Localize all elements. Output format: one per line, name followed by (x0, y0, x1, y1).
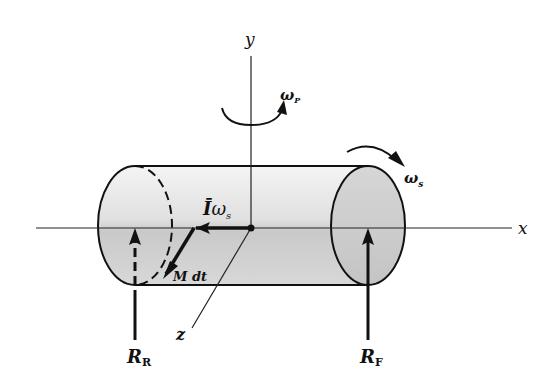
x-axis-label: x (518, 218, 528, 238)
rear-reaction-label: RR (126, 346, 152, 369)
y-axis-label: y (244, 29, 255, 49)
front-reaction-label: RF (359, 346, 383, 369)
gyroscope-diagram: x y z Īωs M dt RR RF (0, 0, 558, 392)
moment-impulse-label: M dt (172, 269, 207, 284)
precession-label: ωP (280, 86, 301, 105)
z-axis-label: z (175, 325, 186, 344)
cylinder-body (98, 166, 368, 285)
precession-arc (222, 108, 282, 125)
spin-label: ωs (404, 169, 423, 189)
spin-arrowhead (388, 151, 405, 167)
precession-rotation: ωP (222, 86, 301, 125)
